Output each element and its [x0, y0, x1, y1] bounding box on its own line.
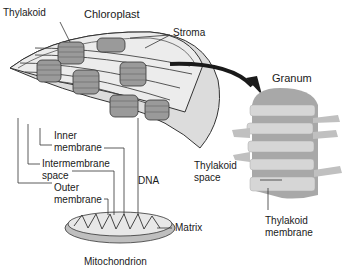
chloroplast-shape [10, 32, 220, 148]
label-outer-membrane-1: Outer [54, 182, 79, 193]
granum-title: Granum [272, 73, 312, 84]
label-intermembrane-space-2: space [42, 170, 69, 181]
label-thylakoid-space-1: Thylakoid [194, 160, 237, 171]
chloroplast-title: Chloroplast [84, 9, 140, 20]
label-matrix: Matrix [175, 222, 202, 233]
label-inner-membrane-1: Inner [54, 130, 77, 141]
label-thylakoid: Thylakoid [3, 7, 46, 18]
label-outer-membrane-2: membrane [54, 194, 102, 205]
label-thylakoid-membrane-2: membrane [265, 227, 313, 238]
granum-shape [232, 88, 342, 199]
label-thylakoid-space-2: space [194, 172, 221, 183]
label-stroma: Stroma [173, 27, 205, 38]
arrow-head-icon [246, 76, 262, 95]
mitochondrion-title: Mitochondrion [84, 256, 147, 267]
label-thylakoid-membrane-1: Thylakoid [265, 215, 308, 226]
label-intermembrane-space-1: Intermembrane [42, 158, 110, 169]
mitochondrion-shape [65, 212, 175, 243]
label-inner-membrane-2: membrane [54, 142, 102, 153]
label-dna: DNA [138, 175, 159, 186]
